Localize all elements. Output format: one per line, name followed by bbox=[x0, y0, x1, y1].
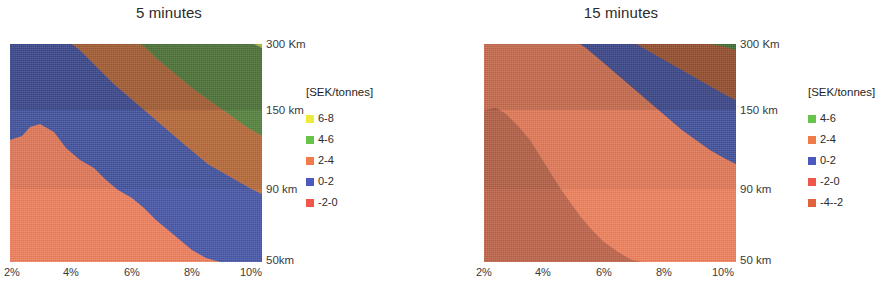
legend-item-minus2-0-right[interactable]: -2-0 bbox=[808, 171, 875, 192]
legend-title-right: [SEK/tonnes] bbox=[808, 86, 875, 98]
xtick-6pct-right: 6% bbox=[596, 266, 612, 278]
chart-panel-15-minutes: 15 minutes 300 Km 150 km 90 km 50 km 2% … bbox=[442, 0, 884, 287]
chart-panel-5-minutes: 5 minutes 300 Km 150 km 90 km 50km 2% 4%… bbox=[0, 0, 442, 287]
ytick-90km-left: 90 km bbox=[266, 183, 297, 195]
legend-label-minus2-0: -2-0 bbox=[318, 197, 338, 208]
legend-label-minus4-minus2-right: -4--2 bbox=[820, 197, 843, 208]
legend-swatch-0-2 bbox=[306, 178, 314, 186]
legend-label-minus2-0-right: -2-0 bbox=[820, 176, 840, 187]
xtick-4pct-right: 4% bbox=[535, 266, 551, 278]
legend-label-0-2-right: 0-2 bbox=[820, 155, 836, 166]
legend-item-minus2-0[interactable]: -2-0 bbox=[306, 192, 373, 213]
legend-item-2-4-right[interactable]: 2-4 bbox=[808, 129, 875, 150]
x-axis-right: 2% 4% 6% 8% 10% bbox=[472, 266, 772, 282]
legend-item-6-8[interactable]: 6-8 bbox=[306, 108, 373, 129]
xtick-10pct-right: 10% bbox=[712, 266, 734, 278]
surface-plot-15-minutes bbox=[484, 44, 736, 262]
legend-swatch-minus4-minus2-right bbox=[808, 199, 816, 207]
legend-title-left: [SEK/tonnes] bbox=[306, 86, 373, 98]
surface-plot-5-minutes bbox=[10, 44, 262, 262]
legend-5-minutes: [SEK/tonnes] 6-8 4-6 2-4 0-2 -2-0 bbox=[306, 86, 373, 213]
ytick-150km-left: 150 km bbox=[266, 104, 304, 116]
legend-label-4-6: 4-6 bbox=[318, 134, 334, 145]
ytick-90km-right: 90 km bbox=[740, 183, 771, 195]
legend-label-2-4-right: 2-4 bbox=[820, 134, 836, 145]
legend-swatch-4-6 bbox=[306, 136, 314, 144]
surface-bands-left bbox=[10, 44, 262, 262]
xtick-8pct-right: 8% bbox=[656, 266, 672, 278]
ytick-50km-right: 50 km bbox=[740, 254, 771, 266]
legend-swatch-minus2-0 bbox=[306, 199, 314, 207]
legend-item-minus4-minus2-right[interactable]: -4--2 bbox=[808, 192, 875, 213]
legend-swatch-2-4-right bbox=[808, 136, 816, 144]
xtick-2pct-right: 2% bbox=[476, 266, 492, 278]
legend-label-6-8: 6-8 bbox=[318, 113, 334, 124]
chart-title-left: 5 minutes bbox=[0, 4, 390, 21]
xtick-2pct-left: 2% bbox=[4, 266, 20, 278]
ytick-300km-left: 300 Km bbox=[266, 38, 306, 50]
ytick-300km-right: 300 Km bbox=[740, 38, 780, 50]
legend-swatch-4-6-right bbox=[808, 115, 816, 123]
chart-title-right: 15 minutes bbox=[400, 4, 842, 21]
x-axis-left: 2% 4% 6% 8% 10% bbox=[0, 266, 290, 282]
legend-item-0-2-right[interactable]: 0-2 bbox=[808, 150, 875, 171]
legend-15-minutes: [SEK/tonnes] 4-6 2-4 0-2 -2-0 -4--2 bbox=[808, 86, 875, 213]
legend-item-2-4[interactable]: 2-4 bbox=[306, 150, 373, 171]
xtick-8pct-left: 8% bbox=[184, 266, 200, 278]
ytick-150km-right: 150 km bbox=[740, 104, 778, 116]
xtick-4pct-left: 4% bbox=[63, 266, 79, 278]
legend-swatch-minus2-0-right bbox=[808, 178, 816, 186]
legend-label-2-4: 2-4 bbox=[318, 155, 334, 166]
surface-bands-right bbox=[484, 44, 736, 262]
legend-item-0-2[interactable]: 0-2 bbox=[306, 171, 373, 192]
ytick-50km-left: 50km bbox=[266, 254, 294, 266]
legend-swatch-6-8 bbox=[306, 115, 314, 123]
legend-item-4-6[interactable]: 4-6 bbox=[306, 129, 373, 150]
legend-swatch-2-4 bbox=[306, 157, 314, 165]
legend-label-4-6-right: 4-6 bbox=[820, 113, 836, 124]
legend-swatch-0-2-right bbox=[808, 157, 816, 165]
legend-label-0-2: 0-2 bbox=[318, 176, 334, 187]
xtick-10pct-left: 10% bbox=[240, 266, 262, 278]
xtick-6pct-left: 6% bbox=[124, 266, 140, 278]
legend-item-4-6-right[interactable]: 4-6 bbox=[808, 108, 875, 129]
